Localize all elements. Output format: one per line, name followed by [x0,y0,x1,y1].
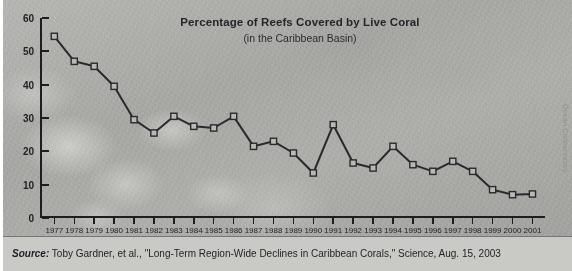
y-axis-label: 30 [23,113,34,124]
x-axis-label: 1984 [185,226,203,235]
x-axis-label: 1977 [45,226,63,235]
x-axis-label: 1983 [165,226,183,235]
x-axis-label: 1994 [384,226,402,235]
x-axis-label: 1987 [245,226,263,235]
x-axis-label: 1982 [145,226,163,235]
x-axis-label: 1978 [65,226,83,235]
x-axis-label: 1980 [105,226,123,235]
x-axis-label: 1991 [324,226,342,235]
x-axis-label: 1989 [284,226,302,235]
x-axis-label: 2001 [524,226,542,235]
y-axis-label: 40 [23,79,34,90]
data-point-marker [330,122,336,128]
data-point-marker [370,165,376,171]
x-axis-label: 1997 [444,226,462,235]
x-axis-tick [93,218,95,224]
x-axis-label: 1981 [125,226,143,235]
data-point-marker [131,117,137,123]
source-label: Source: [12,248,49,259]
data-point-marker [470,168,476,174]
y-axis-label: 20 [23,146,34,157]
data-point-marker [231,113,237,119]
x-axis-label: 1999 [484,226,502,235]
x-axis-tick [193,218,195,224]
x-axis-tick [293,218,295,224]
source-citation: Toby Gardner, et al., "Long-Term Region-… [52,248,501,259]
source-band: Source: Toby Gardner, et al., "Long-Term… [0,236,572,271]
x-axis-tick [492,218,494,224]
x-axis-tick [54,218,56,224]
x-axis-tick [213,218,215,224]
data-point-marker [490,187,496,193]
y-axis-label: 10 [23,179,34,190]
x-axis-label: 1990 [304,226,322,235]
x-axis-label: 1996 [424,226,442,235]
x-axis-tick [113,218,115,224]
plot-area: 0102030405060 19771978197919801981198219… [40,18,545,218]
data-point-marker [410,162,416,168]
data-point-marker [290,150,296,156]
series-line [54,36,532,194]
publisher-credit: Ocean Conservancy [562,104,569,173]
data-point-marker [350,160,356,166]
data-point-marker [430,168,436,174]
x-axis-label: 1995 [404,226,422,235]
data-point-marker [509,192,515,198]
source-line: Source: Toby Gardner, et al., "Long-Term… [12,248,501,259]
x-axis-tick [313,218,315,224]
x-axis-tick [153,218,155,224]
data-point-marker [51,33,57,39]
x-axis-tick [273,218,275,224]
data-point-marker [211,125,217,131]
data-point-marker [71,58,77,64]
x-axis-label: 1986 [225,226,243,235]
x-axis-tick [512,218,514,224]
data-point-marker [529,191,535,197]
x-axis-tick [233,218,235,224]
coral-reef-chart-figure: Percentage of Reefs Covered by Live Cora… [0,0,572,271]
data-point-marker [191,123,197,129]
data-point-marker [390,143,396,149]
x-axis-label: 1993 [364,226,382,235]
data-point-marker [151,130,157,136]
x-axis-tick [472,218,474,224]
y-axis-label: 60 [23,13,34,24]
x-axis-tick [372,218,374,224]
x-axis-label: 1979 [85,226,103,235]
data-point-marker [270,138,276,144]
x-axis-label: 1988 [265,226,283,235]
x-axis-label: 1992 [344,226,362,235]
y-axis-label: 0 [28,213,34,224]
x-axis-tick [532,218,534,224]
x-axis-tick [352,218,354,224]
x-axis-tick [133,218,135,224]
coral-coverage-line-series [40,18,545,218]
data-point-marker [450,158,456,164]
x-axis-tick [74,218,76,224]
x-axis-tick [452,218,454,224]
x-axis-label: 1985 [205,226,223,235]
data-point-marker [171,113,177,119]
x-axis-tick [412,218,414,224]
x-axis-tick [332,218,334,224]
x-axis-label: 1998 [464,226,482,235]
data-point-marker [91,63,97,69]
x-axis-tick [253,218,255,224]
x-axis-label: 2000 [504,226,522,235]
x-axis-tick [432,218,434,224]
data-point-marker [310,170,316,176]
y-axis-label: 50 [23,46,34,57]
x-axis-tick [392,218,394,224]
data-point-marker [111,83,117,89]
data-point-marker [250,143,256,149]
x-axis-tick [173,218,175,224]
